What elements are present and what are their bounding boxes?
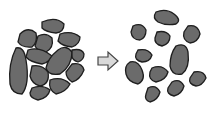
illustration: [0, 0, 220, 114]
separated-cells: [126, 10, 207, 102]
crowded-cell-cluster: [10, 19, 84, 100]
arrow-right-icon: [98, 52, 118, 70]
